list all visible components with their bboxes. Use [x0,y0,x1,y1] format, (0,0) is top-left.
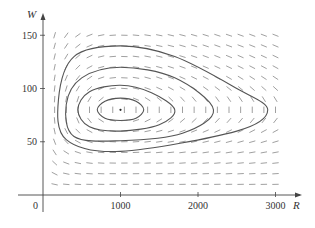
slope-segment [65,85,67,91]
y-tick-label: 150 [22,30,37,41]
slope-segment [262,96,265,101]
slope-segment [215,87,220,91]
x-tick-label: 1000 [111,200,131,211]
slope-segment [145,119,151,122]
slope-segment [239,118,243,123]
trajectories [58,46,268,152]
slope-segment [214,130,220,133]
slope-segment [214,152,220,153]
slope-segment [203,152,209,153]
slope-segment [87,86,92,90]
slope-segment [226,163,232,164]
slope-segment [63,184,69,185]
slope-segment [145,67,151,68]
slope-segment [156,66,162,68]
slope-segment [214,163,220,164]
slope-segment [249,55,255,58]
slope-segment [133,35,139,36]
slope-segment [203,163,209,164]
slope-segment [133,131,139,132]
y-axis-label: W [27,8,37,20]
slope-segment [87,45,93,48]
slope-segment [180,97,184,102]
slope-segment [75,162,81,163]
slope-segment [54,117,55,123]
slope-segment [98,119,103,122]
slope-segment [87,66,93,69]
slope-segment [179,152,185,153]
slope-segment [250,118,254,123]
slope-segment [249,45,255,47]
slope-segment [274,118,278,123]
slope-segment [180,77,186,80]
slope-segment [54,43,56,49]
slope-segment [227,97,231,102]
slope-segment [274,96,277,101]
slope-segment [168,66,174,68]
slope-segment [215,97,219,102]
ticks: 10002000300050100150 [22,30,286,211]
slope-segment [179,45,185,47]
slope-segment [261,163,267,164]
slope-segment [238,66,244,69]
slope-segment [261,152,267,153]
slope-segment [273,130,279,133]
y-tick-label: 100 [22,83,37,94]
slope-segment [144,35,150,36]
slope-segment [87,130,93,133]
slope-segment [203,141,209,143]
slope-segment [75,151,81,153]
slope-segment [226,76,232,79]
slope-segment [75,44,80,48]
chart-canvas: 10002000300050100150 R W 0 [0,0,315,228]
slope-segment [144,141,150,142]
slope-segment [249,152,255,153]
slope-segment [180,118,185,122]
slope-segment [65,75,68,81]
slope-segment [180,130,186,132]
slope-segment [272,141,278,143]
slope-segment [64,43,68,48]
slope-segment [145,77,151,79]
slope-segment [203,130,209,133]
slope-segment [261,141,267,143]
slope-segment [77,118,80,124]
slope-segment [191,76,197,79]
slope-segment [203,66,209,69]
slope-segment [191,56,197,58]
slope-segment [238,55,244,58]
slope-segment [191,130,197,132]
slope-segment [203,76,209,79]
x-tick-label: 2000 [188,200,208,211]
slope-segment [52,184,58,185]
slope-segment [180,87,185,90]
slope-segment [273,66,279,69]
slope-segment [53,139,55,145]
slope-segment [168,45,174,47]
slope-segment [226,55,232,57]
slope-segment [249,130,255,133]
slope-segment [203,87,208,91]
slope-segment [144,45,150,46]
slope-segment [214,141,220,143]
slope-segment [239,96,243,101]
slope-segment [98,56,104,57]
slope-segment [261,66,267,69]
slope-segment [156,141,162,142]
slope-segment [110,88,116,89]
slope-segment [52,161,57,165]
slope-segment [261,130,267,133]
slope-segment [261,34,267,36]
slope-segment [98,152,104,153]
slope-segment [179,56,185,58]
slope-segment [88,96,91,101]
slope-segment [157,119,162,122]
slope-segment [261,55,267,58]
slope-segment [272,152,278,153]
slope-segment [98,35,104,36]
axes [18,13,302,212]
slope-segment [214,45,220,47]
slope-segment [191,34,197,36]
slope-segment [75,173,81,174]
slope-segment [168,87,174,90]
